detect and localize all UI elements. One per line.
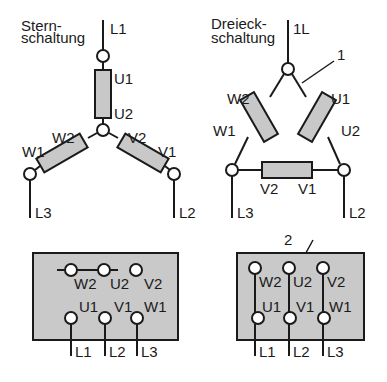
delta-wire [235,137,248,164]
delta-terminal-w1 [318,312,330,324]
star-box-label-w2: W2 [74,275,97,292]
star-box-label-u2: U2 [110,275,129,292]
delta-winding-v [262,162,312,178]
delta-wire [328,137,340,164]
star-box-label-v2: V2 [144,275,162,292]
delta-box-label-l3: L3 [327,343,344,360]
star-winding-u [95,70,111,118]
star-connection: Stern- schaltung L1 U1 U2 W2 W1 L3 V2 V1… [21,17,196,221]
star-wire [109,133,118,138]
delta-terminal-box: 2 W2 U2 V2 U1 V1 W1 L1 L2 L3 [237,231,364,360]
delta-terminal-u1 [252,312,264,324]
delta-label-v2: V2 [260,180,278,197]
delta-box-label-l2: L2 [293,343,310,360]
delta-box-label-l1: L1 [259,343,276,360]
star-label-v2: V2 [128,129,146,146]
star-box-label-v1: V1 [114,298,132,315]
delta-wire [270,74,284,97]
star-label-v1: V1 [158,143,176,160]
delta-box-label-w2: W2 [259,273,282,290]
star-box-label-w1: W1 [144,298,167,315]
star-box-label-l3: L3 [141,343,158,360]
star-box-label-l1: L1 [75,343,92,360]
callout-2-label: 2 [284,231,292,248]
star-terminal-v2 [130,264,142,276]
delta-label-1l: 1L [293,20,310,37]
star-label-l2: L2 [179,204,196,221]
star-label-l1: L1 [110,20,127,37]
star-label-w2: W2 [52,129,75,146]
delta-node-l2 [338,164,350,176]
delta-box-label-v2: V2 [327,273,345,290]
star-terminal-w1 [131,312,143,324]
delta-wire [292,74,306,97]
delta-box-label-v1: V1 [296,298,314,315]
delta-connection: Dreieck- schaltung 1L 1 W2 W1 U1 U2 V2 V… [211,15,366,221]
callout-1-label: 1 [337,46,345,63]
star-label-u2: U2 [114,105,133,122]
delta-label-w1: W1 [213,122,236,139]
star-node-l1 [97,50,109,62]
delta-title-line2: schaltung [211,29,275,46]
callout-1-leader [302,61,334,83]
motor-connection-diagram: Stern- schaltung L1 U1 U2 W2 W1 L3 V2 V1… [0,0,387,382]
star-terminal-u1 [65,312,77,324]
star-label-l3: L3 [35,204,52,221]
delta-node-top [282,63,294,75]
star-wire [88,133,97,138]
delta-box-label-w1: W1 [329,298,352,315]
delta-node-l3 [226,164,238,176]
delta-label-l3: L3 [237,204,254,221]
star-wire [35,166,40,170]
star-center-node [97,124,109,136]
star-terminal-u2 [98,264,110,276]
delta-label-w2: W2 [227,90,250,107]
star-terminal-box: W2 U2 V2 U1 V1 W1 L1 L2 L3 [33,253,178,360]
delta-label-u1: U1 [331,90,350,107]
star-box-label-u1: U1 [79,298,98,315]
star-title-line2: schaltung [21,29,85,46]
delta-box-label-u1: U1 [262,298,281,315]
star-label-u1: U1 [114,70,133,87]
delta-label-l2: L2 [349,204,366,221]
delta-box-label-u2: U2 [293,273,312,290]
delta-label-v1: V1 [298,180,316,197]
star-label-w1: W1 [22,143,45,160]
delta-label-u2: U2 [341,122,360,139]
delta-terminal-v1 [284,312,296,324]
star-terminal-v1 [99,312,111,324]
star-box-label-l2: L2 [109,343,126,360]
star-node-l2 [168,168,180,180]
star-node-l3 [24,168,36,180]
